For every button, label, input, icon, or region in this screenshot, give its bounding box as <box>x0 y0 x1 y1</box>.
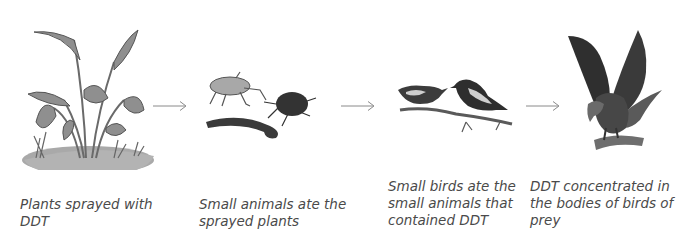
plant-icon <box>14 10 159 170</box>
eagle-icon <box>566 28 666 153</box>
stage-birds-of-prey <box>566 28 666 153</box>
caption-small-birds: Small birds ate the small animals that c… <box>388 178 548 229</box>
caption-line: Plants sprayed with <box>20 196 190 213</box>
small-birds-icon <box>396 78 516 138</box>
stage-small-birds <box>396 78 516 138</box>
caption-small-animals: Small animals ate the sprayed plants <box>199 196 369 230</box>
caption-line: the bodies of birds of <box>530 195 684 212</box>
caption-line: prey <box>530 212 684 229</box>
insects-icon <box>200 70 330 145</box>
stage-plants <box>14 10 159 170</box>
caption-line: sprayed plants <box>199 213 369 230</box>
caption-birds-of-prey: DDT concentrated in the bodies of birds … <box>530 178 684 229</box>
caption-line: DDT <box>20 213 190 230</box>
arrow-right-icon <box>152 100 188 112</box>
stage-small-animals <box>200 70 330 145</box>
caption-line: Small animals ate the <box>199 196 369 213</box>
caption-line: Small birds ate the <box>388 178 548 195</box>
caption-line: DDT concentrated in <box>530 178 684 195</box>
caption-plants: Plants sprayed with DDT <box>20 196 190 230</box>
arrow-right-icon <box>525 100 561 112</box>
arrow-right-icon <box>340 100 376 112</box>
caption-line: small animals that <box>388 195 548 212</box>
caption-line: contained DDT <box>388 212 548 229</box>
